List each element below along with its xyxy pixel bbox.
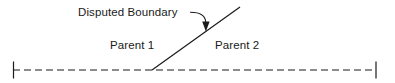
region-label-parent-1: Parent 1 [110,39,154,51]
leader-line [191,12,206,22]
region-label-parent-2: Parent 2 [215,39,259,51]
diagram-canvas [0,0,395,83]
disputed-boundary-label: Disputed Boundary [78,6,178,18]
disputed-boundary-diagram: Disputed Boundary Parent 1 Parent 2 [0,0,395,83]
